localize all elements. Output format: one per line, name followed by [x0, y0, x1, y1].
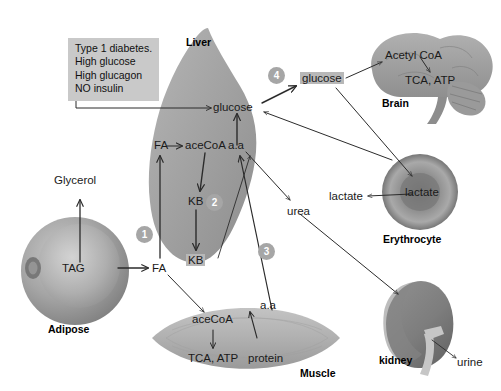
arrow-urea-to-kidney — [300, 214, 398, 294]
step-marker-3: 3 — [258, 243, 275, 260]
arrow-muscle-aa-to-liver — [240, 156, 272, 310]
erythrocyte-lactate-label: lactate — [405, 186, 439, 199]
organ-label-erythrocyte: Erythrocyte — [383, 234, 441, 246]
brain-acetylcoa-label: Acetyl CoA — [385, 49, 442, 62]
organ-label-adipose: Adipose — [48, 324, 89, 336]
blood-kb-label: KB — [186, 254, 205, 267]
brain-tca-label: TCA, ATP — [405, 74, 455, 87]
tag-label: TAG — [62, 262, 85, 275]
muscle-aa-label: a.a — [260, 299, 276, 312]
blood-glucose-label: glucose — [300, 72, 344, 85]
liver-kb-label: KB — [188, 195, 203, 208]
step-marker-1: 1 — [136, 226, 153, 243]
organ-label-kidney: kidney — [379, 355, 412, 367]
glycerol-label: Glycerol — [54, 174, 96, 187]
liver-glucose-label: glucose — [213, 101, 253, 114]
arrow-aa-to-urea — [246, 152, 290, 200]
blood-glucose-text: glucose — [300, 72, 344, 84]
muscle-tca-label: TCA, ATP — [188, 352, 238, 365]
liver-fa-label: FA — [154, 139, 168, 152]
info-line-1: Type 1 diabetes. — [75, 42, 152, 55]
organ-label-muscle: Muscle — [300, 368, 336, 380]
blood-lactate-label: lactate — [329, 190, 363, 203]
step-marker-4: 4 — [268, 67, 285, 84]
arrow-liver-glucose-to-blood — [262, 86, 296, 103]
info-line-3: High glucagon — [75, 69, 152, 82]
muscle-acecoa-label: aceCoA — [192, 313, 233, 326]
blood-fa-label: FA — [152, 262, 166, 275]
info-box: Type 1 diabetes. High glucose High gluca… — [68, 38, 159, 101]
info-line-4: NO insulin — [75, 82, 152, 95]
arrow-lactate-to-liver-glucose — [264, 112, 392, 160]
arrow-fa-to-muscle — [168, 275, 204, 312]
organ-label-brain: Brain — [382, 98, 409, 110]
muscle-shape — [152, 308, 340, 369]
organ-label-liver: Liver — [186, 37, 211, 49]
liver-aa-label: a.a — [228, 139, 244, 152]
diagram-canvas: Type 1 diabetes. High glucose High gluca… — [0, 0, 501, 391]
urine-label: urine — [457, 356, 483, 369]
info-line-2: High glucose — [75, 55, 152, 68]
liver-acecoa-label: aceCoA — [185, 139, 226, 152]
muscle-protein-label: protein — [248, 352, 283, 365]
step-marker-2: 2 — [206, 194, 223, 211]
blood-kb-text: KB — [186, 254, 205, 266]
urea-label: urea — [287, 205, 310, 218]
